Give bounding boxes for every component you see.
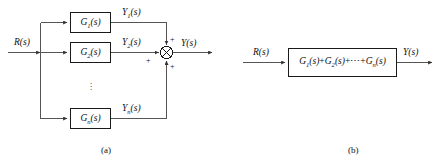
block-g1-label: G1(s) — [71, 18, 111, 29]
signal-label-y1: Y1(s) — [122, 8, 141, 19]
block-gsum-label: G1(s)+G2(s)+⋯+Gn(s) — [289, 57, 397, 68]
sign-plus-left: + — [146, 57, 151, 65]
figure-root: R(s) G1(s) G2(s) Gn(s) Y1(s) Y2(s) Yn(s)… — [0, 0, 438, 164]
sign-plus-top: + — [170, 36, 175, 44]
signal-label-y2: Y2(s) — [122, 38, 141, 49]
output-label-b: Y(s) — [403, 48, 418, 58]
caption-b: (b) — [348, 146, 359, 155]
caption-a: (a) — [101, 146, 111, 155]
block-g2-label: G2(s) — [71, 48, 111, 59]
input-label-b: R(s) — [253, 48, 269, 58]
sign-plus-bottom: + — [170, 63, 175, 71]
panel-a-wiring — [8, 13, 212, 129]
input-label-a: R(s) — [14, 38, 30, 48]
output-label-a: Y(s) — [181, 39, 196, 49]
block-gn-label: Gn(s) — [71, 114, 111, 125]
vertical-ellipsis: ... — [83, 80, 99, 90]
diagram-canvas — [0, 0, 438, 164]
signal-label-yn: Yn(s) — [122, 104, 141, 115]
